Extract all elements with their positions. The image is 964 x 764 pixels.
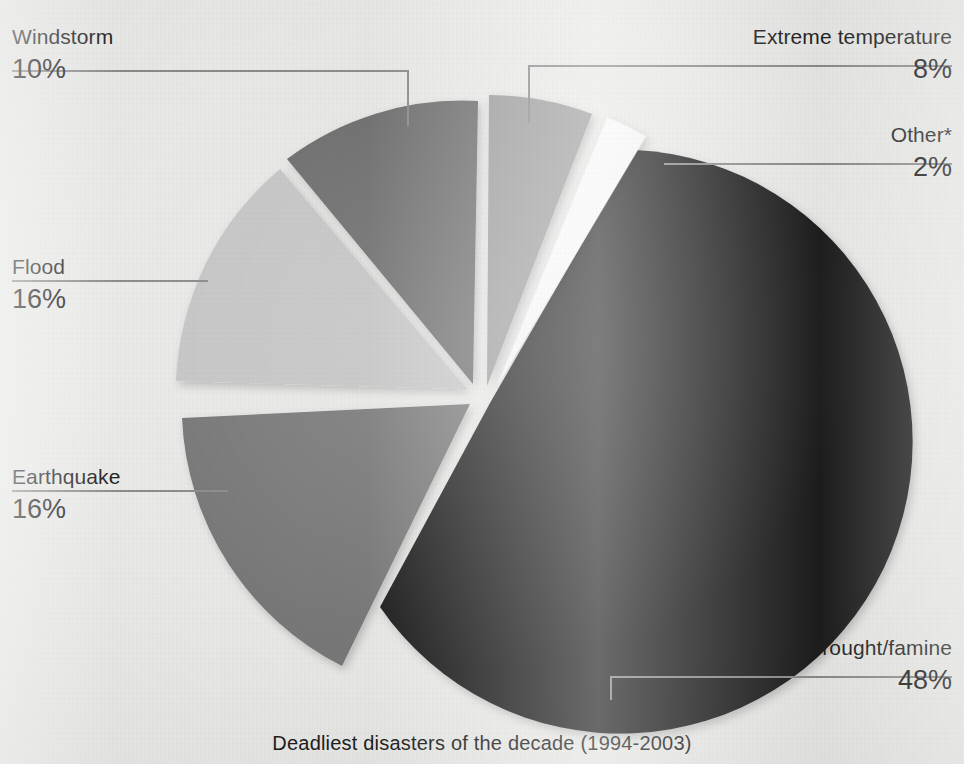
callout-earthquake: Earthquake 16% [12, 466, 120, 523]
callout-other: Other* 2% [532, 124, 952, 181]
callout-earthquake-percent: 16% [12, 496, 120, 523]
callout-drought-famine: Drought/famine 48% [532, 637, 952, 694]
callout-windstorm-percent: 10% [12, 56, 113, 83]
chart-caption: Deadliest disasters of the decade (1994-… [0, 732, 964, 755]
callout-extreme-temperature-name: Extreme temperature [532, 26, 952, 47]
callout-windstorm-name: Windstorm [12, 26, 113, 47]
callout-flood: Flood 16% [12, 256, 66, 313]
callout-extreme-temperature-percent: 8% [532, 56, 952, 83]
callout-drought-famine-name: Drought/famine [532, 637, 952, 658]
callout-flood-percent: 16% [12, 286, 66, 313]
callout-extreme-temperature: Extreme temperature 8% [532, 26, 952, 83]
callout-flood-name: Flood [12, 256, 66, 277]
callout-earthquake-name: Earthquake [12, 466, 120, 487]
callout-other-name: Other* [532, 124, 952, 145]
callout-other-percent: 2% [532, 154, 952, 181]
callout-drought-famine-percent: 48% [532, 667, 952, 694]
callout-windstorm: Windstorm 10% [12, 26, 113, 83]
